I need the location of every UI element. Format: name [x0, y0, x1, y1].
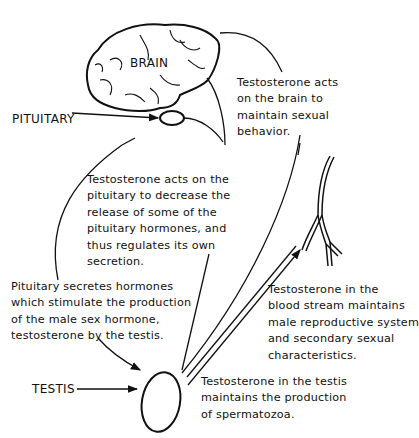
testis-icon: [137, 369, 185, 435]
pituitary-feedback-text: Testosterone acts on the pituitary to de…: [87, 172, 230, 270]
blood-vessel-icon: [302, 156, 342, 266]
brain-label: BRAIN: [130, 56, 168, 70]
blood-stream-text: Testosterone in the blood stream maintai…: [268, 282, 419, 364]
pituitary-label: PITUITARY: [12, 112, 75, 126]
brain-action-text: Testosterone acts on the brain to mainta…: [237, 75, 338, 141]
testis-label: TESTIS: [32, 382, 75, 396]
pituitary-secretes-text: Pituitary secretes hormones which stimul…: [11, 279, 191, 345]
pituitary-gland-icon: [160, 111, 184, 125]
testis-action-text: Testosterone in the testis maintains the…: [201, 374, 347, 423]
